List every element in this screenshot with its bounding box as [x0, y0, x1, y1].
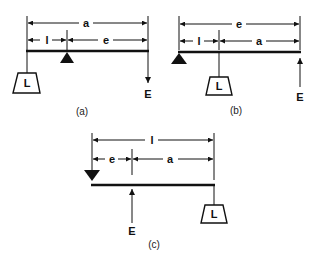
effort-label: E: [144, 88, 151, 100]
effort-label: E: [128, 225, 135, 237]
dimension-label-right: e: [103, 34, 109, 46]
load-label: L: [24, 77, 31, 89]
panel-c: l e a L E (c): [84, 133, 227, 250]
panel-b: e l a L E (b): [171, 16, 304, 116]
panel-a: a l e L E (a): [13, 16, 152, 117]
dimension-label-right: a: [167, 153, 174, 165]
dimension-label-top: a: [83, 17, 90, 29]
effort-label: E: [296, 91, 303, 103]
load-label: L: [216, 80, 223, 92]
lever-classes-diagram: a l e L E (a) e l: [0, 0, 312, 262]
dimension-label-left: e: [109, 153, 115, 165]
fulcrum-icon: [84, 170, 100, 181]
dimension-label-right: a: [256, 35, 263, 47]
dimension-label-top: e: [236, 18, 242, 30]
fulcrum-icon: [60, 52, 74, 63]
dimension-label-left: l: [45, 34, 48, 46]
fulcrum-icon: [171, 53, 187, 64]
dimension-label-top: l: [150, 134, 153, 146]
panel-caption: (c): [148, 239, 160, 250]
panel-caption: (a): [76, 106, 88, 117]
load-label: L: [211, 208, 218, 220]
panel-caption: (b): [230, 105, 242, 116]
dimension-label-left: l: [197, 35, 200, 47]
